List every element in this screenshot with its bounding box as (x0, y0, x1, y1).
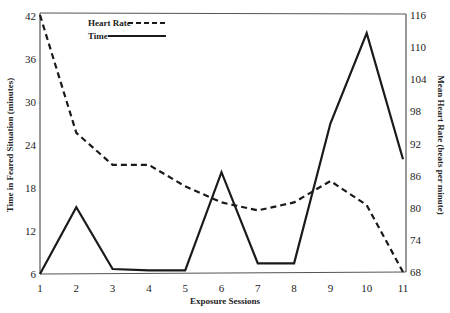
x-tick-label: 11 (398, 282, 409, 294)
left-tick-label: 24 (25, 139, 37, 151)
x-tick-label: 1 (37, 282, 43, 294)
right-axis-ticks: 687480869298104110116 (410, 9, 427, 278)
top-border-line (40, 13, 406, 14)
x-tick-label: 6 (219, 282, 225, 294)
left-axis-ticks: 6121824303642 (25, 10, 37, 280)
left-tick-label: 12 (25, 225, 36, 237)
x-tick-label: 10 (361, 282, 373, 294)
right-tick-label: 110 (410, 41, 427, 53)
x-tick-label: 4 (146, 282, 152, 294)
right-tick-label: 116 (410, 9, 427, 21)
right-tick-label: 104 (410, 73, 427, 85)
x-tick-label: 9 (328, 282, 334, 294)
right-tick-label: 74 (410, 234, 422, 246)
left-tick-label: 42 (25, 10, 36, 22)
time-series-line (40, 33, 403, 274)
dual-axis-line-chart: 6121824303642 687480869298104110116 1234… (0, 0, 450, 313)
legend-time-label: Time (88, 31, 108, 41)
plot-frame (40, 13, 406, 274)
x-tick-label: 5 (182, 282, 188, 294)
series-layer (40, 15, 403, 274)
heart-rate-series-line (40, 15, 403, 272)
right-tick-label: 80 (410, 202, 422, 214)
y-left-axis-title: Time in Feared Situation (minutes) (5, 78, 15, 213)
legend-heart-rate-label: Heart Rate (88, 18, 131, 28)
x-tick-label: 3 (110, 282, 116, 294)
left-tick-label: 6 (31, 268, 37, 280)
right-tick-label: 92 (410, 138, 421, 150)
x-axis-line (40, 272, 406, 274)
x-axis-title: Exposure Sessions (190, 296, 261, 306)
left-tick-label: 36 (25, 53, 37, 65)
left-tick-label: 30 (25, 96, 37, 108)
right-tick-label: 98 (410, 105, 422, 117)
x-tick-label: 8 (291, 282, 297, 294)
x-tick-label: 2 (74, 282, 80, 294)
y-right-axis-title: Mean Heart Rate (beats per minute) (436, 75, 446, 215)
x-axis-ticks: 1234567891011 (37, 282, 408, 294)
right-tick-label: 86 (410, 170, 422, 182)
left-tick-label: 18 (25, 182, 37, 194)
legend: Heart Rate Time (88, 18, 166, 41)
x-tick-label: 7 (255, 282, 261, 294)
right-tick-label: 68 (410, 266, 422, 278)
